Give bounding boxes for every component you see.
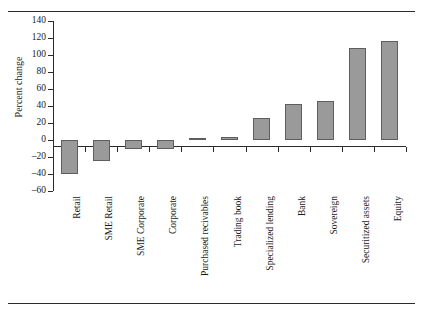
x-tick-label: Retail xyxy=(73,196,83,219)
x-tick-label: Securitized assets xyxy=(362,196,372,263)
y-tick xyxy=(48,140,53,141)
x-tick-label: Purchased recivables xyxy=(201,196,211,276)
y-tick-label: 20 xyxy=(6,118,46,128)
x-tick-label: Bank xyxy=(298,196,308,216)
x-tick-label: Specialized lending xyxy=(266,196,276,271)
y-tick-label: 100 xyxy=(6,50,46,60)
x-tick xyxy=(53,147,54,152)
x-tick xyxy=(374,147,375,152)
bar xyxy=(317,101,334,140)
x-tick xyxy=(85,147,86,152)
bar xyxy=(61,140,78,174)
y-tick-label: 80 xyxy=(6,67,46,77)
bottom-rule xyxy=(8,303,415,304)
x-tick xyxy=(246,147,247,152)
bar xyxy=(221,137,238,140)
y-tick xyxy=(48,106,53,107)
x-tick-label: SME Corporate xyxy=(137,196,147,256)
y-tick xyxy=(48,72,53,73)
bar xyxy=(125,140,142,149)
y-tick-label: –20 xyxy=(6,152,46,162)
y-axis-line xyxy=(53,21,54,191)
bar xyxy=(253,118,270,140)
y-tick xyxy=(48,123,53,124)
y-tick xyxy=(48,55,53,56)
y-tick-label: 60 xyxy=(6,84,46,94)
y-tick xyxy=(48,89,53,90)
x-tick-label: SME Retail xyxy=(105,196,115,241)
x-tick xyxy=(213,147,214,152)
bar xyxy=(285,104,302,140)
bar xyxy=(157,140,174,149)
top-rule xyxy=(8,11,415,12)
x-tick xyxy=(181,147,182,152)
bar xyxy=(381,41,398,140)
x-tick-label: Corporate xyxy=(169,196,179,234)
bar xyxy=(349,48,366,140)
x-tick-label: Trading book xyxy=(234,196,244,247)
y-tick xyxy=(48,174,53,175)
figure-container: Percent change –60–40–200204060801001201… xyxy=(0,0,423,315)
x-tick xyxy=(278,147,279,152)
x-tick xyxy=(149,147,150,152)
x-tick-label: Equity xyxy=(394,196,404,221)
x-tick xyxy=(310,147,311,152)
y-tick-label: –40 xyxy=(6,169,46,179)
y-tick-label: 0 xyxy=(6,135,46,145)
x-tick xyxy=(342,147,343,152)
y-tick-label: 120 xyxy=(6,33,46,43)
y-tick xyxy=(48,38,53,39)
y-tick xyxy=(48,21,53,22)
y-tick-label: 140 xyxy=(6,16,46,26)
x-tick xyxy=(117,147,118,152)
y-tick-label: –60 xyxy=(6,186,46,196)
y-tick-label: 40 xyxy=(6,101,46,111)
y-tick xyxy=(48,191,53,192)
y-tick xyxy=(48,157,53,158)
bar xyxy=(189,138,206,140)
x-tick xyxy=(406,147,407,152)
bar xyxy=(93,140,110,161)
x-tick-label: Sovereign xyxy=(330,196,340,235)
